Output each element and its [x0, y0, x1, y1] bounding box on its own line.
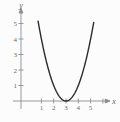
x-ticks: 12345	[40, 99, 103, 113]
y-tick-label: 2	[14, 67, 18, 75]
y-ticks: 12345	[14, 20, 24, 90]
y-tick-label: 4	[14, 36, 18, 44]
parabola-figure: 12345 12345 x y	[0, 0, 120, 122]
x-tick-label: 1	[40, 104, 44, 112]
x-tick-label: 4	[77, 104, 81, 112]
y-axis-label: y	[18, 1, 23, 10]
graph-canvas: 12345 12345 x y	[0, 0, 120, 122]
x-tick-label: 2	[52, 104, 56, 112]
x-axis-arrow-icon	[105, 99, 110, 103]
x-tick-label: 5	[89, 104, 93, 112]
y-tick-label: 3	[14, 51, 18, 59]
y-tick-label: 5	[14, 20, 18, 28]
x-tick-label: 3	[64, 104, 68, 112]
x-axis-label: x	[111, 97, 116, 106]
parabola-curve	[38, 21, 94, 101]
y-tick-label: 1	[14, 82, 18, 90]
